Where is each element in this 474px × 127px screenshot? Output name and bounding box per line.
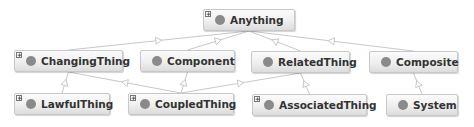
class-node-relatedthing[interactable]: RelatedThing <box>251 51 350 73</box>
class-node-associatedthing[interactable]: +AssociatedThing <box>252 94 367 116</box>
class-node-composite[interactable]: Composite <box>369 51 458 73</box>
class-circle-icon <box>140 99 150 109</box>
class-label: LawfulThing <box>41 98 113 110</box>
class-label: CoupledThing <box>155 98 236 110</box>
expand-icon[interactable]: + <box>16 95 22 101</box>
class-node-lawfulthing[interactable]: +LawfulThing <box>14 93 110 115</box>
class-circle-icon <box>381 57 391 67</box>
class-label: Anything <box>230 14 284 26</box>
arrowhead-icon <box>328 38 334 45</box>
class-label: System <box>413 99 457 111</box>
arrowhead-icon <box>61 80 68 87</box>
class-circle-icon <box>263 57 273 67</box>
class-label: Composite <box>396 56 459 68</box>
arrowhead-icon <box>416 81 422 88</box>
class-label: Component <box>167 55 235 67</box>
arrowhead-icon <box>122 80 129 87</box>
class-label: ChangingThing <box>41 55 130 67</box>
class-circle-icon <box>26 56 36 66</box>
expand-icon[interactable]: + <box>205 11 211 17</box>
class-circle-icon <box>26 99 36 109</box>
expand-icon[interactable]: + <box>130 95 136 101</box>
arrowhead-icon <box>155 37 161 44</box>
class-node-coupledthing[interactable]: +CoupledThing <box>128 93 234 115</box>
arrowhead-icon <box>214 38 221 45</box>
class-circle-icon <box>264 100 274 110</box>
arrowhead-icon <box>272 39 279 46</box>
class-node-anything[interactable]: +Anything <box>203 9 295 31</box>
class-node-component[interactable]: Component <box>140 50 235 72</box>
class-label: AssociatedThing <box>279 99 377 111</box>
arrowhead-icon <box>303 81 309 88</box>
class-circle-icon <box>152 56 162 66</box>
arrowhead-icon <box>180 80 187 87</box>
class-node-system[interactable]: System <box>386 94 458 116</box>
class-label: RelatedThing <box>278 56 357 68</box>
class-circle-icon <box>398 100 408 110</box>
class-node-changingthing[interactable]: +ChangingThing <box>14 50 123 72</box>
expand-icon[interactable]: + <box>254 96 260 102</box>
arrowhead-icon <box>237 80 243 87</box>
class-circle-icon <box>215 15 225 25</box>
expand-icon[interactable]: + <box>16 52 22 58</box>
